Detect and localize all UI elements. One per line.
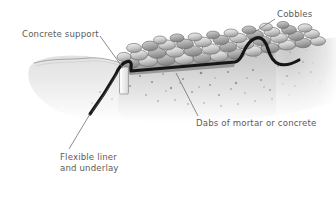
leader-flexible-liner	[69, 114, 90, 149]
label-dabs-of-mortar-or-concrete: Dabs of mortar or concrete	[196, 118, 317, 129]
label-concrete-support: Concrete support	[22, 29, 99, 40]
label-cobbles: Cobbles	[277, 9, 312, 20]
label-line-2: and underlay	[60, 163, 119, 173]
concrete-support-block	[120, 67, 129, 94]
label-line-1: Flexible liner	[60, 152, 117, 162]
label-flexible-liner-and-underlay: Flexible linerand underlay	[60, 152, 119, 174]
